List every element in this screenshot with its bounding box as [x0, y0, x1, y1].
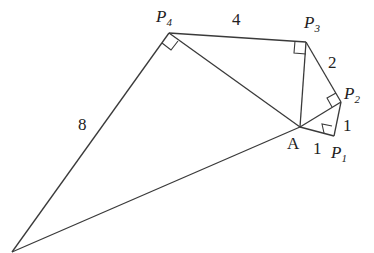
right-angle-P2: [327, 93, 336, 107]
edge-A-P3: [300, 42, 306, 127]
edge-A-P1: [300, 127, 334, 136]
length-P1-P2: 1: [343, 116, 352, 135]
edge-A-P2: [300, 102, 341, 127]
length-P3-P4: 4: [232, 10, 241, 29]
label-P3: P3: [303, 13, 320, 34]
label-P1: P1: [330, 143, 347, 164]
right-angle-P3: [294, 41, 306, 54]
label-P4: P4: [155, 7, 172, 28]
length-A-P1: 1: [313, 139, 322, 158]
edge-A-P4: [169, 33, 300, 127]
edge-P3-P4: [169, 33, 306, 42]
label-A: A: [287, 134, 300, 153]
edge-A-P5: [12, 127, 300, 252]
right-angle-P1: [322, 124, 332, 133]
length-P2-P3: 2: [328, 53, 337, 72]
right-angle-P4: [162, 41, 178, 50]
length-P4-P5: 8: [78, 115, 87, 134]
edge-P4-P5: [12, 33, 169, 252]
geometry-diagram: A P1 P2 P3 P4 1 1 2 4 8: [0, 0, 374, 253]
edge-P1-P2: [334, 102, 341, 136]
label-P2: P2: [343, 84, 360, 105]
